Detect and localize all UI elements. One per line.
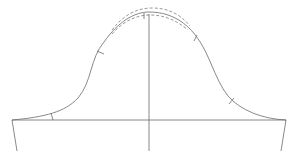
- right-underarm-seam: [281, 120, 286, 151]
- notch-left-lower: [51, 113, 53, 120]
- left-underarm-seam: [12, 120, 17, 151]
- sleeve-pattern-diagram: [0, 0, 298, 165]
- crown-dashed-upper: [112, 8, 190, 30]
- notch-left-upper: [97, 51, 104, 54]
